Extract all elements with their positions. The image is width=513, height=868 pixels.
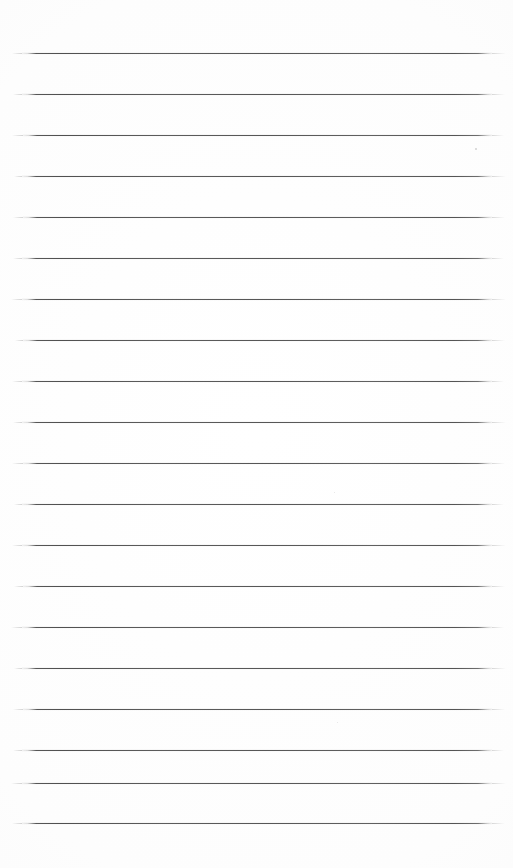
ruled-line-left-tail: [12, 53, 22, 54]
ruled-line: [22, 93, 492, 96]
ruled-line: [23, 708, 492, 711]
paper-background: [0, 0, 513, 868]
scanned-page: [0, 0, 513, 868]
ruled-line-stroke: [22, 750, 492, 751]
ruled-line-stroke: [22, 94, 492, 95]
ruled-line-stroke: [23, 709, 492, 710]
ruled-line-right-tail: [492, 217, 505, 218]
ruled-line-right-tail: [492, 463, 505, 464]
ruled-line-left-tail: [13, 258, 22, 259]
ruled-line-stroke: [22, 627, 492, 628]
ruled-line: [22, 822, 492, 825]
ruled-line: [23, 462, 492, 465]
ruled-line-stroke: [22, 668, 492, 669]
ruled-line-left-tail: [14, 586, 23, 587]
ruled-line: [23, 339, 492, 342]
ruled-line-left-tail: [14, 668, 22, 669]
ruled-line: [22, 175, 492, 178]
ruled-line: [22, 749, 492, 752]
ruled-line-left-tail: [13, 709, 23, 710]
ruled-line-right-tail: [492, 750, 504, 751]
ruled-line-left-tail: [13, 94, 22, 95]
ruled-line-stroke: [22, 299, 492, 300]
ruled-line-left-tail: [11, 627, 22, 628]
ruled-line-right-tail: [492, 258, 504, 259]
ruled-line: [22, 257, 492, 260]
ruled-line-left-tail: [12, 823, 22, 824]
ruled-line-left-tail: [15, 340, 23, 341]
ruled-line: [23, 585, 492, 588]
ruled-line-stroke: [22, 504, 492, 505]
ruled-line-stroke: [22, 545, 492, 546]
ruled-line-stroke: [22, 258, 492, 259]
ruled-line-right-tail: [492, 823, 505, 824]
ruled-line: [23, 216, 492, 219]
ruled-line-stroke: [22, 422, 492, 423]
ruled-line-right-tail: [492, 545, 506, 546]
ruled-line-stroke: [22, 53, 492, 54]
ruled-line-stroke: [22, 823, 492, 824]
ruled-line-stroke: [23, 586, 492, 587]
ruled-line: [22, 52, 492, 55]
ruled-line-left-tail: [11, 783, 22, 784]
ruled-line: [22, 298, 492, 301]
ruled-line: [22, 626, 492, 629]
scan-speck: [475, 148, 477, 150]
ruled-line-left-tail: [14, 504, 22, 505]
ruled-line-right-tail: [492, 381, 504, 382]
ruled-line-left-tail: [13, 217, 23, 218]
ruled-line-left-tail: [13, 750, 22, 751]
ruled-line-stroke: [23, 217, 492, 218]
ruled-line-right-tail: [492, 176, 506, 177]
ruled-line-right-tail: [492, 783, 506, 784]
ruled-line: [22, 782, 492, 785]
ruled-line-stroke: [23, 135, 492, 136]
ruled-line: [22, 667, 492, 670]
ruled-line-right-tail: [492, 422, 506, 423]
ruled-line-right-tail: [492, 299, 506, 300]
ruled-line-right-tail: [492, 53, 506, 54]
ruled-line-stroke: [22, 783, 492, 784]
ruled-line: [22, 380, 492, 383]
ruled-line-left-tail: [14, 176, 22, 177]
ruled-line-left-tail: [12, 135, 23, 136]
ruled-line: [22, 503, 492, 506]
ruled-line-stroke: [22, 176, 492, 177]
ruled-line-left-tail: [13, 422, 22, 423]
ruled-line-left-tail: [11, 299, 22, 300]
ruled-line-right-tail: [492, 586, 505, 587]
ruled-line-right-tail: [492, 94, 505, 95]
ruled-line-right-tail: [492, 504, 504, 505]
ruled-line-right-tail: [492, 668, 506, 669]
ruled-line: [22, 421, 492, 424]
ruled-line-right-tail: [492, 627, 504, 628]
scan-speck: [337, 722, 338, 723]
ruled-line-left-tail: [12, 545, 22, 546]
ruled-line-right-tail: [492, 709, 505, 710]
ruled-line: [23, 134, 492, 137]
ruled-line-left-tail: [12, 381, 22, 382]
ruled-line-stroke: [23, 340, 492, 341]
ruled-line-left-tail: [12, 463, 23, 464]
ruled-line: [22, 544, 492, 547]
ruled-line-right-tail: [492, 135, 504, 136]
ruled-line-right-tail: [492, 340, 505, 341]
ruled-line-stroke: [23, 463, 492, 464]
ruled-line-stroke: [22, 381, 492, 382]
scan-speck: [334, 492, 335, 493]
